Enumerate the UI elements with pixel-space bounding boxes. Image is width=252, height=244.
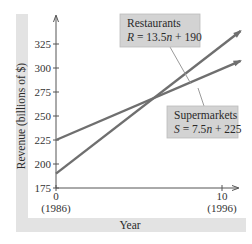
x-tick-label: 10 <box>217 190 229 202</box>
x-tick-label: 0 <box>53 190 59 202</box>
callout-equation-supermarkets: S = 7.5n + 225 <box>174 123 242 135</box>
series-group <box>56 30 242 173</box>
y-tick-label: 300 <box>35 62 52 74</box>
callout-supermarkets: SupermarketsS = 7.5n + 225 <box>167 88 242 138</box>
x-tick-sublabel: (1986) <box>41 202 71 215</box>
callout-title-restaurants: Restaurants <box>127 17 181 29</box>
y-ticks: 175200225250275300325 <box>35 38 60 194</box>
callout-title-supermarkets: Supermarkets <box>174 109 238 122</box>
x-tick-sublabel: (1996) <box>207 202 237 215</box>
y-tick-label: 325 <box>35 38 52 50</box>
series-line-restaurants <box>56 31 241 174</box>
y-tick-label: 225 <box>35 134 52 146</box>
x-ticks: 0(1986)10(1996) <box>41 185 237 215</box>
y-tick-label: 250 <box>35 110 52 122</box>
callout-equation-restaurants: R = 13.5n + 190 <box>126 31 202 43</box>
series-arrow-icon-supermarkets <box>233 60 242 66</box>
callout-restaurants: RestaurantsR = 13.5n + 190 <box>120 14 202 84</box>
x-axis-title: Year <box>119 219 140 231</box>
y-tick-label: 275 <box>35 86 52 98</box>
y-axis-title: Revenue (billions of $) <box>15 63 28 170</box>
y-tick-label: 200 <box>35 158 52 170</box>
callout-leader-supermarkets <box>198 88 204 106</box>
chart: Revenue (billions of $) Year 17520022525… <box>0 0 252 244</box>
y-tick-label: 175 <box>35 182 52 194</box>
